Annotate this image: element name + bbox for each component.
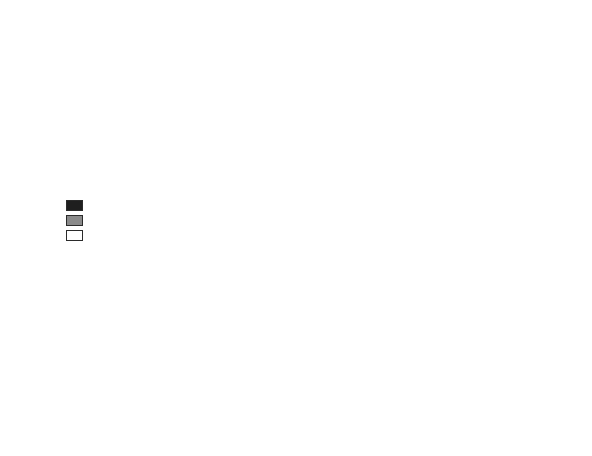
legend-item-mertensiana (66, 228, 90, 243)
legend-swatch-amabilis (66, 200, 83, 211)
bottom-histogram-bars (58, 190, 568, 392)
bottom-histogram-panel (58, 190, 568, 392)
legend-item-amabilis (66, 198, 90, 213)
figure-root (0, 0, 592, 456)
legend (66, 198, 90, 243)
legend-swatch-lasiocarpa (66, 215, 83, 226)
legend-swatch-mertensiana (66, 230, 83, 241)
legend-item-lasiocarpa (66, 213, 90, 228)
top-histogram-bars (58, 14, 568, 176)
top-histogram-panel (58, 14, 568, 176)
y-axis-title (2, 96, 20, 296)
